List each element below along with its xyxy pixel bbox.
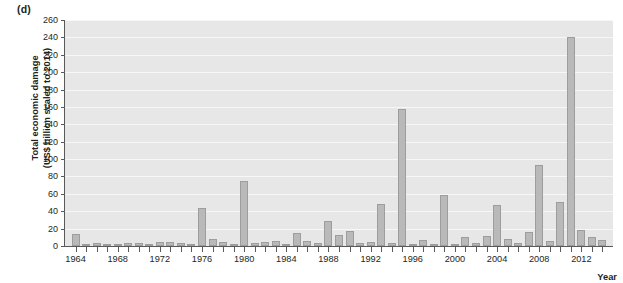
y-axis-tick-label: 100 xyxy=(43,154,58,164)
x-axis-tick xyxy=(571,247,572,252)
bar xyxy=(198,208,206,246)
y-axis-tick xyxy=(61,176,65,177)
x-axis-tick-label: 2000 xyxy=(445,254,465,264)
y-axis-tick xyxy=(61,159,65,160)
x-axis-tick xyxy=(76,247,77,252)
x-axis-tick xyxy=(381,247,382,252)
y-axis-tick xyxy=(61,90,65,91)
y-axis-tick xyxy=(61,72,65,73)
x-axis-tick xyxy=(97,247,98,252)
x-axis-tick xyxy=(455,247,456,252)
bar-series xyxy=(65,20,613,246)
y-axis-tick xyxy=(61,124,65,125)
x-axis-tick xyxy=(307,247,308,252)
x-axis-tick xyxy=(497,247,498,252)
y-axis-tick-label: 240 xyxy=(43,32,58,42)
x-axis-tick-label: 1972 xyxy=(150,254,170,264)
bar xyxy=(293,233,301,246)
y-axis-tick-label: 200 xyxy=(43,67,58,77)
x-axis-tick xyxy=(465,247,466,252)
bar xyxy=(483,236,491,246)
x-axis-tick xyxy=(118,247,119,252)
y-axis-tick xyxy=(61,194,65,195)
x-axis-tick xyxy=(286,247,287,252)
bar xyxy=(346,231,354,246)
x-axis-tick xyxy=(413,247,414,252)
x-axis-tick xyxy=(139,247,140,252)
bar xyxy=(398,109,406,246)
x-axis-tick xyxy=(402,247,403,252)
x-axis-tick-label: 1996 xyxy=(403,254,423,264)
x-axis-tick xyxy=(476,247,477,252)
x-axis-tick-label: 1988 xyxy=(318,254,338,264)
y-axis-tick-label: 20 xyxy=(48,224,58,234)
y-axis-ticks: 020406080100120140160180200220240260 xyxy=(0,20,65,247)
x-axis-tick xyxy=(223,247,224,252)
x-axis-tick-label: 1964 xyxy=(65,254,85,264)
y-axis-tick xyxy=(61,107,65,108)
y-axis-tick-label: 120 xyxy=(43,137,58,147)
x-axis-tick xyxy=(297,247,298,252)
y-axis-tick xyxy=(61,229,65,230)
x-axis-tick xyxy=(444,247,445,252)
bar xyxy=(335,235,343,246)
bar xyxy=(535,165,543,246)
x-axis-tick xyxy=(508,247,509,252)
x-axis-tick-label: 1980 xyxy=(234,254,254,264)
x-axis-tick xyxy=(255,247,256,252)
x-axis-tick xyxy=(371,247,372,252)
y-axis-tick-label: 40 xyxy=(48,206,58,216)
y-axis-tick-label: 260 xyxy=(43,15,58,25)
bar xyxy=(461,237,469,246)
x-axis-tick xyxy=(529,247,530,252)
x-axis-tick xyxy=(244,247,245,252)
bar xyxy=(72,234,80,246)
y-axis-tick-label: 140 xyxy=(43,119,58,129)
x-axis-tick-label: 1968 xyxy=(107,254,127,264)
x-axis-tick-label: 2008 xyxy=(529,254,549,264)
x-axis-tick xyxy=(86,247,87,252)
y-axis-tick-label: 180 xyxy=(43,85,58,95)
y-axis-tick xyxy=(61,20,65,21)
y-axis-tick xyxy=(61,37,65,38)
bar xyxy=(556,202,564,246)
x-axis-tick xyxy=(276,247,277,252)
x-axis-tick-label: 1992 xyxy=(360,254,380,264)
x-axis-tick xyxy=(539,247,540,252)
plot-area xyxy=(65,20,613,246)
x-axis-tick xyxy=(602,247,603,252)
y-axis-tick-label: 60 xyxy=(48,189,58,199)
x-axis-tick xyxy=(213,247,214,252)
y-axis-tick xyxy=(61,211,65,212)
x-axis-tick-label: 2012 xyxy=(571,254,591,264)
x-axis-tick xyxy=(202,247,203,252)
bar xyxy=(493,205,501,246)
x-axis-tick xyxy=(423,247,424,252)
bar xyxy=(440,195,448,246)
x-axis-tick xyxy=(350,247,351,252)
x-axis-tick xyxy=(128,247,129,252)
y-axis-tick-label: 220 xyxy=(43,50,58,60)
x-axis-tick xyxy=(339,247,340,252)
x-axis-tick xyxy=(318,247,319,252)
bar xyxy=(577,230,585,246)
y-axis-tick xyxy=(61,55,65,56)
x-axis-tick xyxy=(560,247,561,252)
x-axis-tick xyxy=(181,247,182,252)
bar xyxy=(504,239,512,246)
x-axis-tick xyxy=(550,247,551,252)
x-axis-tick xyxy=(328,247,329,252)
x-axis-tick xyxy=(160,247,161,252)
x-axis-tick xyxy=(107,247,108,252)
x-axis-tick-label: 1976 xyxy=(192,254,212,264)
x-axis-tick xyxy=(434,247,435,252)
x-axis-tick xyxy=(392,247,393,252)
y-axis-tick-label: 80 xyxy=(48,171,58,181)
x-axis-tick xyxy=(234,247,235,252)
x-axis-tick xyxy=(518,247,519,252)
x-axis-tick xyxy=(581,247,582,252)
x-axis-tick xyxy=(360,247,361,252)
x-axis-tick-label: 2004 xyxy=(487,254,507,264)
x-axis-tick xyxy=(265,247,266,252)
x-axis-tick xyxy=(592,247,593,252)
